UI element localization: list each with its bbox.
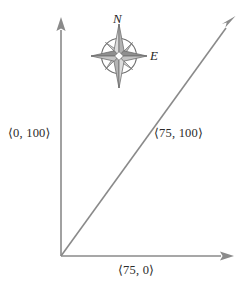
x-axis-coordinate-label: ⟨75, 0⟩	[118, 262, 154, 278]
y-axis-coordinate-label: ⟨0, 100⟩	[8, 125, 51, 141]
diagonal-ray-line	[61, 28, 226, 256]
vertical-axis-arrowhead	[56, 17, 65, 31]
vertical-axis	[56, 17, 65, 256]
compass-rose-icon	[91, 24, 147, 88]
diagonal-coordinate-label: ⟨75, 100⟩	[154, 125, 203, 141]
diagonal-ray-arrowhead	[222, 16, 236, 28]
horizontal-axis-arrowhead	[220, 251, 234, 260]
compass-east-label: E	[150, 48, 158, 64]
compass-north-label: N	[113, 11, 122, 27]
diagram-canvas	[0, 0, 245, 293]
coordinate-diagram-figure: ⟨0, 100⟩ ⟨75, 100⟩ ⟨75, 0⟩ N E	[0, 0, 245, 293]
diagonal-ray	[61, 16, 236, 256]
horizontal-axis	[61, 251, 234, 260]
